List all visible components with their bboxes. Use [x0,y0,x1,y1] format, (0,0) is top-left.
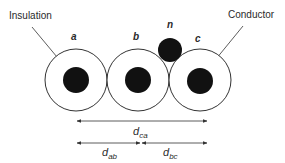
neutral-conductor [158,38,182,62]
insulation-label: Insulation [9,10,52,21]
neutral-label: n [167,19,173,30]
conductor-a [63,67,89,93]
conductor-b [125,67,151,93]
cable-b [107,49,169,111]
phase-c-label: c [195,33,201,44]
conductor-label: Conductor [228,9,275,20]
cable-a [45,49,107,111]
phase-b-label: b [133,31,139,42]
conductor-c [187,68,213,94]
dimension-dca-label: dca [133,125,148,140]
cable-diagram: Insulation Conductor a b n c dca dab dbc [0,0,285,163]
dimension-dbc-label: dbc [163,146,178,161]
phase-a-label: a [71,31,77,42]
dimension-dab-label: dab [102,146,118,161]
